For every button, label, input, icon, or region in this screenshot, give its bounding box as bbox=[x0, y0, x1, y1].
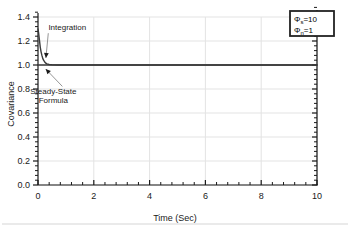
y-tick-label: 1.0 bbox=[17, 60, 30, 70]
y-tick-label: 0.2 bbox=[17, 156, 30, 166]
x-tick-label: 10 bbox=[312, 191, 322, 201]
y-tick-label: 0.8 bbox=[17, 84, 30, 94]
covariance-plot-svg: 0.00.20.40.60.81.01.21.40246810 Integrat… bbox=[0, 0, 350, 226]
y-axis-title: Covariance bbox=[6, 81, 16, 127]
y-tick-label: 1.4 bbox=[17, 12, 30, 22]
y-tick-label: 0.4 bbox=[17, 132, 30, 142]
y-tick-label: 1.2 bbox=[17, 36, 30, 46]
chart-figure: 0.00.20.40.60.81.01.21.40246810 Integrat… bbox=[0, 0, 350, 226]
annotation-steady-state-label-line2: Formula bbox=[39, 96, 69, 105]
legend-box: Φs=10Φn=1 bbox=[290, 11, 334, 36]
x-tick-label: 4 bbox=[147, 191, 152, 201]
x-axis-title: Time (Sec) bbox=[153, 213, 197, 223]
y-tick-label: 0.0 bbox=[17, 180, 30, 190]
annotation-integration-label: Integration bbox=[48, 23, 86, 32]
x-tick-label: 2 bbox=[91, 191, 96, 201]
annotation-steady-state-label-line1: Steady-State bbox=[30, 87, 77, 96]
legend-entry: Φs=10 bbox=[294, 15, 318, 25]
x-tick-label: 8 bbox=[259, 191, 264, 201]
y-tick-label: 0.6 bbox=[17, 108, 30, 118]
x-tick-label: 6 bbox=[203, 191, 208, 201]
x-tick-label: 0 bbox=[35, 191, 40, 201]
legend-entry: Φn=1 bbox=[294, 26, 313, 36]
